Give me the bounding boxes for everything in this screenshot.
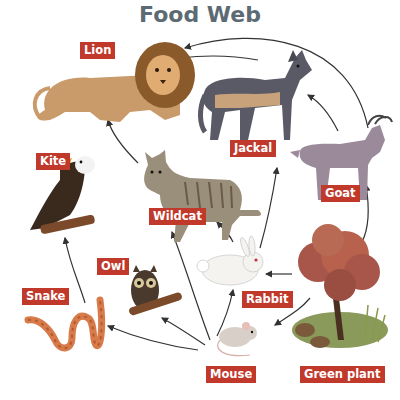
arrow-mouse-to-owl (162, 318, 205, 345)
label-kite: Kite (36, 153, 70, 170)
wildcat-illustration (144, 150, 261, 242)
arrow-mouse-to-snake (108, 326, 198, 350)
label-lion: Lion (80, 42, 115, 59)
green-plant-illustration (292, 224, 388, 348)
owl-illustration (128, 265, 183, 316)
label-snake: Snake (22, 288, 69, 305)
arrow-goat-to-jackal (308, 95, 338, 131)
mouse-illustration (218, 322, 257, 356)
arrow-wildcat-to-lion (108, 120, 138, 163)
label-goat: Goat (321, 185, 360, 202)
label-owl: Owl (97, 258, 129, 275)
label-green-plant: Green plant (300, 366, 385, 383)
arrow-rabbit-to-jackal (260, 168, 277, 248)
jackal-illustration (200, 50, 312, 140)
label-mouse: Mouse (206, 366, 256, 383)
arrow-jackal-to-lion (180, 56, 258, 60)
snake-illustration (28, 300, 102, 348)
arrow-mouse-to-wildcat (172, 232, 210, 340)
label-rabbit: Rabbit (242, 291, 293, 308)
label-wildcat: Wildcat (149, 208, 206, 225)
label-jackal: Jackal (230, 140, 276, 157)
rabbit-illustration (197, 236, 263, 285)
